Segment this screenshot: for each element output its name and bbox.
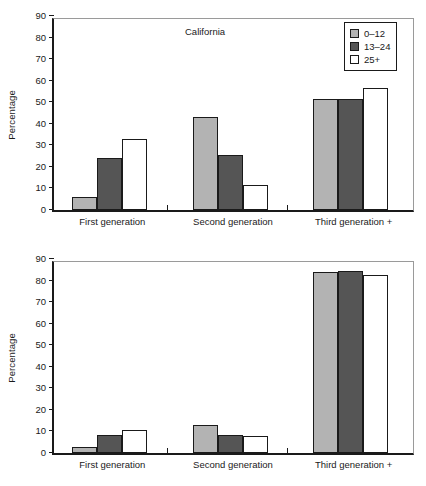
y-axis-title-label: Percentage [6,90,17,140]
legend-item-13-24[interactable]: 13–24 [350,40,390,53]
legend-swatch-13-24-icon [350,42,359,51]
y-axis-tick-label: 20 [35,403,46,416]
bar[interactable] [218,435,243,453]
y-axis-tick: 50 [49,344,54,345]
y-axis-tick: 30 [49,387,54,388]
x-axis-category-label: Third generation + [293,216,414,227]
y-axis-tick-label: 80 [35,31,46,44]
y-axis-tick-label: 90 [35,9,46,22]
y-axis-tick-label: 10 [35,424,46,437]
y-axis-tick: 50 [49,101,54,102]
bar[interactable] [72,197,97,210]
bar[interactable] [243,436,268,453]
y-axis-tick-label: 90 [35,252,46,265]
x-axis-category-label: First generation [52,459,173,470]
bar[interactable] [193,425,218,453]
y-axis-tick-label: 10 [35,181,46,194]
legend-item-25-plus[interactable]: 25+ [350,53,390,66]
plot-area-united-states: 0102030405060708090 [52,261,414,455]
chart-title-california: California [185,26,225,37]
x-axis-category-label: First generation [52,216,173,227]
bar-group [193,19,268,210]
x-axis-group-separator [167,205,168,210]
y-axis-tick: 80 [49,280,54,281]
bar-group [72,19,147,210]
figure-two-panel-bar-charts: Percentage 0102030405060708090 Californi… [0,0,426,486]
bar[interactable] [97,435,122,453]
y-axis-tick: 90 [49,15,54,16]
y-axis-tick: 20 [49,166,54,167]
y-axis-tick-label: 0 [41,446,46,459]
legend-swatch-25-plus-icon [350,55,359,64]
bar[interactable] [193,117,218,210]
x-axis-group-separator [287,448,288,453]
y-axis-tick-label: 30 [35,138,46,151]
bar-group [313,262,388,453]
y-axis-tick: 10 [49,187,54,188]
y-axis-tick: 30 [49,144,54,145]
legend-swatch-0-12-icon [350,29,359,38]
x-axis-group-separator [287,205,288,210]
y-axis-tick: 90 [49,258,54,259]
y-axis-tick-label: 40 [35,360,46,373]
y-axis-tick-label: 0 [41,203,46,216]
bar[interactable] [363,88,388,210]
y-axis-title-label: Percentage [6,333,17,383]
legend-label-13-24: 13–24 [364,40,390,53]
bar[interactable] [72,447,97,453]
bar[interactable] [363,275,388,453]
y-axis-tick: 60 [49,323,54,324]
x-axis-category-label: Third generation + [293,459,414,470]
bar[interactable] [122,430,147,453]
y-axis-tick-label: 80 [35,274,46,287]
bar[interactable] [243,185,268,210]
x-axis-group-separator [167,448,168,453]
bar[interactable] [97,158,122,210]
bar-group [72,262,147,453]
y-axis-tick: 40 [49,123,54,124]
y-axis-tick-label: 20 [35,160,46,173]
y-axis-tick-label: 50 [35,95,46,108]
y-axis-tick: 10 [49,430,54,431]
y-axis-title-united-states: Percentage [8,261,22,455]
legend-label-25-plus: 25+ [364,53,380,66]
y-axis-tick: 0 [49,209,54,210]
y-axis-tick-label: 50 [35,338,46,351]
legend-california: 0–12 13–24 25+ [344,22,397,71]
y-axis-tick-label: 40 [35,117,46,130]
y-axis-tick: 80 [49,37,54,38]
y-axis-tick-label: 30 [35,381,46,394]
y-axis-tick: 20 [49,409,54,410]
bar[interactable] [313,272,338,453]
y-axis-tick-label: 70 [35,295,46,308]
y-axis-tick: 70 [49,58,54,59]
y-axis-tick-label: 60 [35,74,46,87]
y-axis-tick: 60 [49,80,54,81]
bar-group [193,262,268,453]
x-axis-category-label: Second generation [173,216,294,227]
bar[interactable] [338,271,363,453]
legend-label-0-12: 0–12 [364,27,385,40]
chart-panel-united-states: Percentage 0102030405060708090 United St… [0,243,426,486]
bar[interactable] [218,155,243,210]
chart-panel-california: Percentage 0102030405060708090 Californi… [0,0,426,243]
y-axis-tick-label: 60 [35,317,46,330]
bar[interactable] [313,99,338,210]
bar[interactable] [338,99,363,210]
x-axis-category-label: Second generation [173,459,294,470]
legend-item-0-12[interactable]: 0–12 [350,27,390,40]
bar[interactable] [122,139,147,210]
y-axis-tick: 70 [49,301,54,302]
y-axis-title-california: Percentage [8,18,22,212]
y-axis-tick-label: 70 [35,52,46,65]
y-axis-tick: 40 [49,366,54,367]
y-axis-tick: 0 [49,452,54,453]
